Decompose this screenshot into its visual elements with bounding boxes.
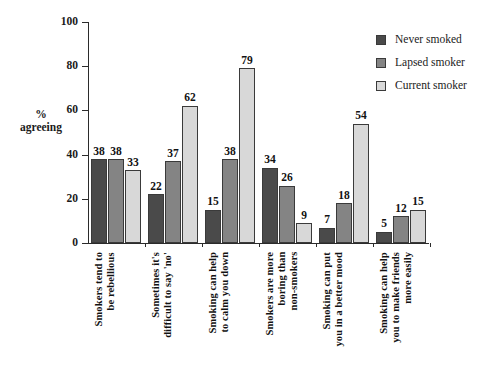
bar[interactable]: [393, 216, 409, 243]
x-axis-tick-mark: [202, 243, 203, 247]
legend-label: Never smoked: [395, 34, 462, 46]
y-axis-title: % agreeing: [6, 108, 76, 134]
y-axis-tick-label: 20: [44, 193, 78, 205]
bar-slot: 7: [319, 22, 335, 243]
bar-slot: 38: [108, 22, 124, 243]
bar-slot: 22: [148, 22, 164, 243]
y-axis-tick: 20: [0, 199, 89, 200]
y-axis-title-line2: agreeing: [6, 121, 76, 134]
bar-slot: 38: [91, 22, 107, 243]
y-axis-title-line1: %: [6, 108, 76, 121]
legend-label: Current smoker: [395, 80, 467, 92]
bar-value-label: 79: [232, 55, 262, 67]
bar-slot: 62: [182, 22, 198, 243]
y-axis-tick-mark: [82, 66, 89, 67]
y-axis-tick-mark: [82, 110, 89, 111]
bar-value-label: 62: [175, 92, 205, 104]
x-axis-tick-mark: [373, 243, 374, 247]
bar-slot: 15: [205, 22, 221, 243]
y-axis-tick-mark: [82, 22, 89, 23]
bar-group: 34269: [262, 22, 318, 243]
y-axis-tick-label: 100: [44, 16, 78, 28]
y-axis-tick-label: 0: [44, 237, 78, 249]
x-axis-tick-mark: [430, 243, 431, 247]
x-axis-tick-mark: [145, 243, 146, 247]
x-axis-tick-mark: [259, 243, 260, 247]
legend-swatch: [376, 81, 386, 91]
bar[interactable]: [353, 124, 369, 243]
bar-slot: 37: [165, 22, 181, 243]
y-axis-tick-label: 40: [44, 149, 78, 161]
legend-swatch: [376, 35, 386, 45]
bar[interactable]: [91, 159, 107, 243]
bar[interactable]: [148, 194, 164, 243]
legend-item[interactable]: Never smoked: [376, 30, 493, 49]
bar[interactable]: [296, 223, 312, 243]
legend: Never smokedLapsed smokerCurrent smoker: [376, 30, 493, 99]
x-axis-category-label: Smoking can help to calm you down: [207, 252, 231, 334]
bar[interactable]: [205, 210, 221, 243]
x-axis-category-label: Sometimes it's difficult to say 'no': [150, 252, 174, 338]
x-axis-category-label: Smokers tend to be rebellious: [93, 252, 117, 326]
x-axis-category-label: Smoking can help you to make friends mor…: [378, 252, 414, 343]
y-axis-tick: 80: [0, 66, 89, 67]
y-axis-tick: 40: [0, 155, 89, 156]
bar-value-label: 15: [403, 196, 433, 208]
legend-label: Lapsed smoker: [395, 57, 465, 69]
bar-value-label: 54: [346, 110, 376, 122]
bar[interactable]: [376, 232, 392, 243]
bar-group: 383833: [91, 22, 147, 243]
bar-slot: 54: [353, 22, 369, 243]
y-axis-tick-mark: [82, 199, 89, 200]
y-axis-tick: 0: [0, 243, 89, 244]
bar[interactable]: [165, 161, 181, 243]
y-axis-tick-label: 80: [44, 60, 78, 72]
bar-group: 71854: [319, 22, 375, 243]
bar-group: 223762: [148, 22, 204, 243]
y-axis-tick: 100: [0, 22, 89, 23]
legend-item[interactable]: Current smoker: [376, 76, 493, 95]
legend-swatch: [376, 58, 386, 68]
bar[interactable]: [410, 210, 426, 243]
bar[interactable]: [336, 203, 352, 243]
bar[interactable]: [319, 228, 335, 243]
bar[interactable]: [182, 106, 198, 243]
x-axis-tick-mark: [316, 243, 317, 247]
bar-slot: 33: [125, 22, 141, 243]
bar[interactable]: [222, 159, 238, 243]
bar-group: 153879: [205, 22, 261, 243]
bar[interactable]: [239, 68, 255, 243]
x-axis-category-label: Smokers are more boring than non-smokers: [264, 252, 300, 335]
x-axis-category-label: Smoking can put you in a better mood: [321, 252, 345, 347]
bar-slot: 79: [239, 22, 255, 243]
legend-item[interactable]: Lapsed smoker: [376, 53, 493, 72]
bar-chart: 020406080100 % agreeing 3838332237621538…: [0, 0, 493, 376]
bar[interactable]: [108, 159, 124, 243]
bar-slot: 18: [336, 22, 352, 243]
bar-slot: 34: [262, 22, 278, 243]
bar-slot: 9: [296, 22, 312, 243]
bar-value-label: 33: [118, 157, 148, 169]
bar[interactable]: [125, 170, 141, 243]
